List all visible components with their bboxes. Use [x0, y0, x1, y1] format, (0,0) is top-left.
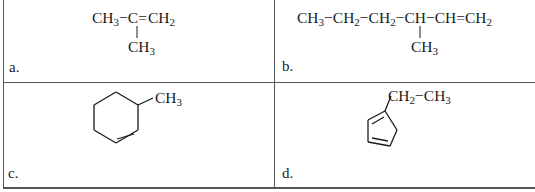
formula-b-branch: CH3	[411, 39, 438, 55]
cyclopentadiene-ring	[360, 96, 410, 166]
cell-b-label: b.	[282, 58, 293, 75]
structures-table	[3, 0, 535, 188]
formula-c-substituent: CH3	[155, 90, 182, 106]
table-bottom-border	[3, 187, 535, 189]
formula-a-branch: CH3	[128, 39, 155, 55]
table-row-divider	[3, 82, 535, 83]
table-center-divider	[274, 0, 275, 188]
cyclohexene-ring	[90, 88, 150, 148]
cell-d-label: d.	[282, 165, 293, 182]
cell-c-label: c.	[8, 165, 18, 182]
table-left-border	[3, 0, 4, 188]
formula-a-main: CH3−C=CH2	[92, 10, 175, 26]
formula-b-main: CH3−CH2−CH2−CH−CH=CH2	[297, 10, 492, 26]
cell-a-label: a.	[9, 59, 19, 76]
